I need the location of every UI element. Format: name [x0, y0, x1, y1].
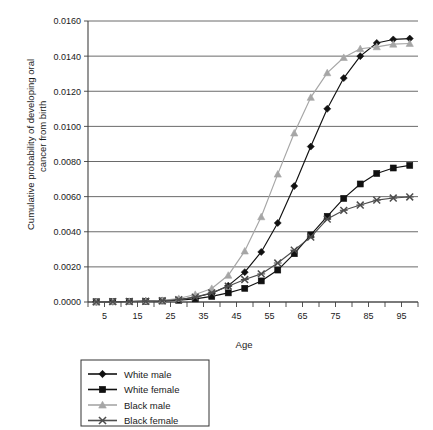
x-tick-label: 75 — [330, 311, 340, 321]
y-tick-label: 0.0000 — [53, 297, 81, 307]
oral-cancer-cumulative-probability-chart: Cumulative probability of developing ora… — [0, 0, 433, 430]
marker-square — [341, 195, 347, 201]
x-tick-label: 25 — [165, 311, 175, 321]
x-tick-label: 95 — [396, 311, 406, 321]
x-tick-label: 15 — [132, 311, 142, 321]
chart-figure: Cumulative probability of developing ora… — [0, 0, 433, 430]
y-tick-label: 0.0080 — [53, 157, 81, 167]
y-tick-label: 0.0140 — [53, 52, 81, 62]
marker-square — [225, 290, 231, 296]
x-axis-title: Age — [236, 339, 253, 350]
y-tick-label: 0.0040 — [53, 227, 81, 237]
y-tick-label: 0.0160 — [53, 16, 81, 26]
marker-square — [357, 181, 363, 187]
marker-square — [242, 285, 248, 291]
legend-label: White male — [124, 369, 172, 380]
marker-square — [258, 278, 264, 284]
y-axis-title-line1: Cumulative probability of developing ora… — [25, 59, 36, 230]
y-tick-label: 0.0020 — [53, 262, 81, 272]
x-tick-label: 65 — [297, 311, 307, 321]
marker-square — [374, 170, 380, 176]
legend-label: Black female — [124, 415, 178, 426]
marker-square — [390, 165, 396, 171]
x-tick-label: 55 — [264, 311, 274, 321]
y-axis-title-line2: cancer from birth — [37, 101, 48, 172]
legend-label: White female — [124, 384, 179, 395]
y-tick-label: 0.0100 — [53, 122, 81, 132]
x-tick-label: 85 — [363, 311, 373, 321]
x-tick-label: 35 — [198, 311, 208, 321]
x-tick-label: 5 — [102, 311, 107, 321]
legend-label: Black male — [124, 400, 170, 411]
chart-background — [0, 0, 433, 430]
marker-square — [407, 162, 413, 168]
marker-square — [275, 267, 281, 273]
x-tick-label: 45 — [231, 311, 241, 321]
marker-square — [99, 386, 105, 392]
y-tick-label: 0.0120 — [53, 87, 81, 97]
y-tick-label: 0.0060 — [53, 192, 81, 202]
